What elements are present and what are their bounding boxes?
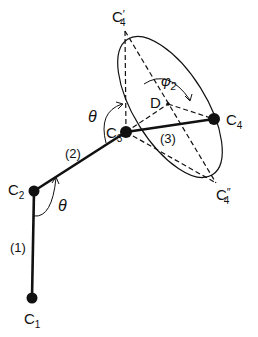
label-bond-1: (1) <box>10 240 26 255</box>
label-c1: C1 <box>24 310 41 330</box>
label-d: D <box>150 94 161 111</box>
label-c3: C3 <box>106 124 123 144</box>
theta-arc-c3-arrowhead <box>116 102 123 109</box>
label-bond-3: (3) <box>160 131 176 146</box>
cone-dashed-lines <box>125 31 216 183</box>
bond-1 <box>32 191 34 298</box>
label-theta-c3: θ <box>88 108 97 125</box>
point-d <box>166 102 170 106</box>
label-theta-c2: θ <box>58 197 67 214</box>
label-c2: C2 <box>8 181 25 201</box>
label-phi2: φ2 <box>161 72 177 92</box>
label-c4: C4 <box>226 111 243 131</box>
label-c4-prime: C′4 <box>112 8 126 28</box>
atom-c2 <box>29 186 40 197</box>
bond-rotation-diagram: C1 C2 C3 C4 C′4 C″4 D (1) (2) (3) θ θ φ2 <box>0 0 258 337</box>
atom-c4 <box>208 113 220 125</box>
atom-c1 <box>27 293 38 304</box>
label-bond-2: (2) <box>65 146 81 161</box>
label-c4-double-prime: C″4 <box>216 186 231 206</box>
